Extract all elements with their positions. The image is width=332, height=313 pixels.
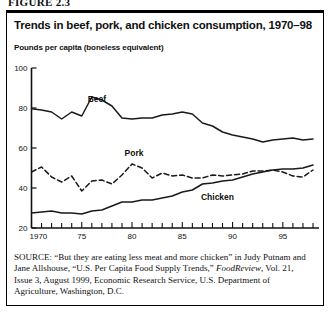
svg-text:85: 85	[178, 232, 187, 241]
source-line-1: “But they are eating less meat and more …	[52, 252, 261, 262]
series-label-beef: Beef	[88, 94, 107, 104]
svg-text:95: 95	[278, 232, 287, 241]
chart-axes: 2040608010019707580859095	[14, 64, 319, 241]
chart-series-labels: BeefPorkChicken	[88, 94, 234, 202]
svg-text:40: 40	[19, 184, 28, 193]
source-publication: FoodReview	[216, 263, 261, 273]
series-label-chicken: Chicken	[201, 192, 234, 202]
svg-text:80: 80	[128, 232, 137, 241]
chart-series	[32, 97, 314, 214]
svg-text:100: 100	[14, 64, 28, 73]
svg-text:1970: 1970	[30, 232, 48, 241]
series-line-chicken	[32, 165, 314, 214]
svg-text:80: 80	[19, 104, 28, 113]
svg-text:75: 75	[77, 232, 86, 241]
svg-text:20: 20	[19, 224, 28, 233]
series-line-pork	[32, 164, 314, 191]
svg-text:90: 90	[228, 232, 237, 241]
svg-text:60: 60	[19, 144, 28, 153]
series-line-beef	[32, 97, 314, 142]
source-label: SOURCE:	[14, 252, 52, 262]
series-label-pork: Pork	[125, 148, 144, 158]
source-note: SOURCE: “But they are eating less meat a…	[14, 252, 314, 298]
